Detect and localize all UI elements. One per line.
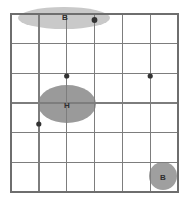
point-4 — [36, 121, 41, 126]
figure-container: BHB — [0, 0, 189, 208]
region-label-b-0: B — [62, 13, 68, 22]
point-1 — [92, 17, 98, 23]
point-2 — [64, 73, 69, 78]
region-label-h-1: H — [64, 101, 70, 110]
region-label-b-2: B — [160, 173, 166, 182]
scatter-grid-figure: BHB — [0, 0, 189, 208]
point-3 — [148, 73, 153, 78]
